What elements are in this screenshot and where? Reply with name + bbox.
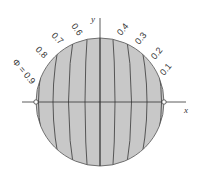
left-endpoint-marker (34, 100, 38, 104)
label-0.9: Φ = 0.9 (10, 57, 37, 86)
x-axis-label: x (183, 105, 188, 115)
right-endpoint-marker (162, 100, 166, 104)
potential-diagram: x y Φ = 0.9 0.8 0.7 0.6 0.4 0.3 0.2 0.1 (0, 0, 197, 175)
label-0.2: 0.2 (149, 45, 165, 61)
label-0.7: 0.7 (50, 30, 66, 46)
label-0.1: 0.1 (158, 61, 174, 77)
label-0.8: 0.8 (34, 44, 50, 60)
label-0.3: 0.3 (133, 30, 149, 46)
label-0.6: 0.6 (69, 21, 84, 37)
label-0.4: 0.4 (115, 21, 131, 37)
y-axis-label: y (90, 14, 95, 24)
